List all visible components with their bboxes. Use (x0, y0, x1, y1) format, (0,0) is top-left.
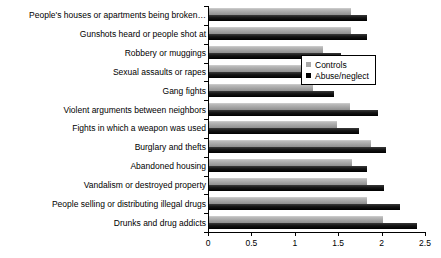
chart-row: Abandoned housing (0, 157, 441, 176)
bar-abuse-neglect (208, 15, 367, 21)
bar-abuse-neglect (208, 91, 334, 97)
chart-row: Violent arguments between neighbors (0, 100, 441, 119)
y-axis-tick (204, 194, 208, 195)
bar-controls (208, 65, 306, 72)
x-axis-tick-label: 0.5 (245, 238, 257, 248)
chart-row: Vandalism or destroyed property (0, 175, 441, 194)
category-label: Violent arguments between neighbors (63, 105, 206, 115)
y-axis-tick (204, 157, 208, 158)
x-axis-tick-label: 2.5 (419, 238, 431, 248)
y-axis-tick (204, 232, 208, 233)
row-bars (208, 25, 441, 44)
bar-controls (208, 178, 367, 185)
category-label: Gunshots heard or people shot at (80, 29, 206, 39)
x-axis-tick-label: 0 (206, 238, 211, 248)
bar-controls (208, 140, 371, 147)
category-label: Drunks and drug addicts (114, 218, 206, 228)
row-bars (208, 175, 441, 194)
bar-abuse-neglect (208, 128, 359, 134)
legend-item-controls: Controls (306, 59, 369, 70)
y-axis-tick (204, 25, 208, 26)
x-axis-tick-label: 2 (379, 238, 384, 248)
row-bars (208, 6, 441, 25)
chart-row: Fights in which a weapon was used (0, 119, 441, 138)
chart-rows: People's houses or apartments being brok… (0, 6, 441, 232)
chart-row: People's houses or apartments being brok… (0, 6, 441, 25)
bar-abuse-neglect (208, 185, 384, 191)
category-label: Gang fights (163, 86, 206, 96)
chart-row: Gunshots heard or people shot at (0, 25, 441, 44)
bar-abuse-neglect (208, 34, 367, 40)
y-axis-tick (204, 100, 208, 101)
category-label: People's houses or apartments being brok… (29, 10, 206, 20)
bar-controls (208, 121, 337, 128)
y-axis-tick (204, 119, 208, 120)
bar-controls (208, 197, 367, 204)
category-label: Fights in which a weapon was used (72, 123, 206, 133)
legend-label-controls: Controls (315, 60, 347, 70)
x-axis-tick (425, 232, 426, 236)
bar-controls (208, 103, 350, 110)
chart-row: Burglary and thefts (0, 138, 441, 157)
row-bars (208, 157, 441, 176)
bar-chart: People's houses or apartments being brok… (0, 0, 441, 258)
x-axis-tick (251, 232, 252, 236)
row-bars (208, 194, 441, 213)
bar-controls (208, 159, 352, 166)
chart-row: Drunks and drug addicts (0, 213, 441, 232)
y-axis-tick (204, 176, 208, 177)
legend-swatch-abuse-icon (306, 73, 311, 78)
category-label: People selling or distributing illegal d… (52, 199, 206, 209)
y-axis-tick (204, 63, 208, 64)
row-bars (208, 138, 441, 157)
bar-abuse-neglect (208, 72, 316, 78)
chart-legend: Controls Abuse/neglect (301, 55, 376, 85)
y-axis-tick (204, 44, 208, 45)
x-axis-tick-label: 1 (292, 238, 297, 248)
x-axis-tick (295, 232, 296, 236)
row-bars (208, 100, 441, 119)
x-axis-tick (208, 232, 209, 236)
y-axis-tick (204, 81, 208, 82)
category-label: Burglary and thefts (135, 142, 206, 152)
bar-abuse-neglect (208, 223, 417, 229)
category-label: Vandalism or destroyed property (84, 180, 206, 190)
category-label: Robbery or muggings (125, 48, 206, 58)
bar-controls (208, 46, 323, 53)
legend-label-abuse-neglect: Abuse/neglect (315, 71, 369, 81)
bar-abuse-neglect (208, 110, 378, 116)
y-axis-tick (204, 138, 208, 139)
bar-abuse-neglect (208, 147, 386, 153)
x-axis-tick (382, 232, 383, 236)
bar-controls (208, 84, 313, 91)
y-axis-tick (204, 213, 208, 214)
row-bars (208, 119, 441, 138)
y-axis-tick (204, 6, 208, 7)
row-bars (208, 213, 441, 232)
legend-swatch-controls-icon (306, 62, 311, 67)
x-axis-tick (338, 232, 339, 236)
chart-row: People selling or distributing illegal d… (0, 194, 441, 213)
legend-item-abuse-neglect: Abuse/neglect (306, 70, 369, 81)
category-label: Abandoned housing (130, 161, 206, 171)
bar-controls (208, 216, 383, 223)
bar-abuse-neglect (208, 204, 400, 210)
bar-controls (208, 27, 351, 34)
x-axis-tick-label: 1.5 (332, 238, 344, 248)
bar-abuse-neglect (208, 166, 367, 172)
x-axis-line (208, 232, 426, 233)
bar-controls (208, 8, 351, 15)
category-label: Sexual assaults or rapes (113, 67, 206, 77)
